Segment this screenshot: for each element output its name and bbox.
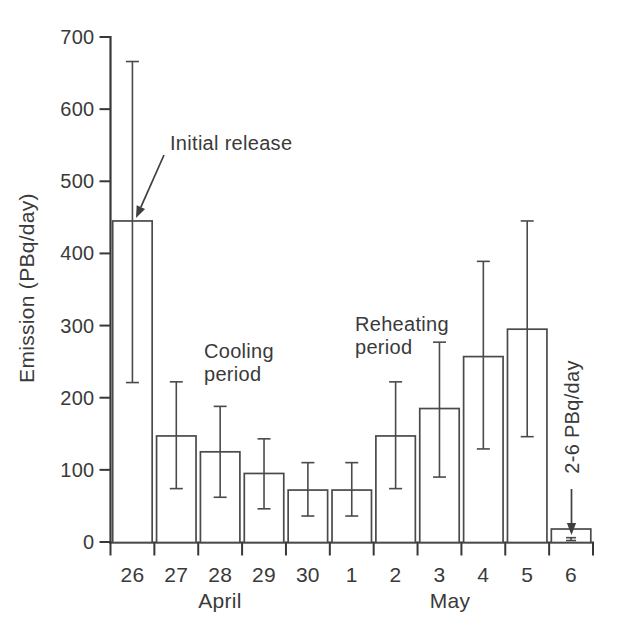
x-tick-label-apr-28: 28 [208,563,232,586]
y-tick-label-300: 300 [60,315,94,337]
month-label-may: May [430,589,471,612]
y-tick-label-200: 200 [60,387,94,409]
annotation-cooling-period-line2: period [204,363,261,385]
arrow-initial-release-line [141,155,164,207]
emission-rate-figure: 01002003004005006007002627282930123456Ap… [0,0,620,642]
y-tick-label-700: 700 [60,26,94,48]
emission-bar-chart: 01002003004005006007002627282930123456Ap… [0,0,620,642]
x-tick-label-may-4: 4 [477,563,489,586]
y-tick-label-400: 400 [60,242,94,264]
annotation-may6-note: 2-6 PBq/day [561,360,583,473]
x-tick-label-apr-30: 30 [296,563,320,586]
y-tick-label-100: 100 [60,459,94,481]
x-tick-label-may-1: 1 [346,563,358,586]
x-tick-label-may-5: 5 [521,563,533,586]
x-tick-label-may-6: 6 [565,563,577,586]
annotation-cooling-period-line1: Cooling [204,340,274,362]
annotation-reheating-period-line1: Reheating [355,313,449,335]
annotation-initial-release: Initial release [170,132,292,154]
y-tick-label-0: 0 [83,531,94,553]
y-tick-label-600: 600 [60,98,94,120]
y-axis-title: Emission (PBq/day) [15,193,38,383]
x-tick-label-may-3: 3 [433,563,445,586]
month-label-april: April [198,589,242,612]
x-tick-label-apr-29: 29 [252,563,276,586]
x-tick-label-apr-27: 27 [164,563,188,586]
y-tick-label-500: 500 [60,170,94,192]
x-tick-label-may-2: 2 [390,563,402,586]
x-tick-label-apr-26: 26 [120,563,144,586]
arrow-initial-release-head [136,205,145,218]
annotation-reheating-period-line2: period [355,336,412,358]
